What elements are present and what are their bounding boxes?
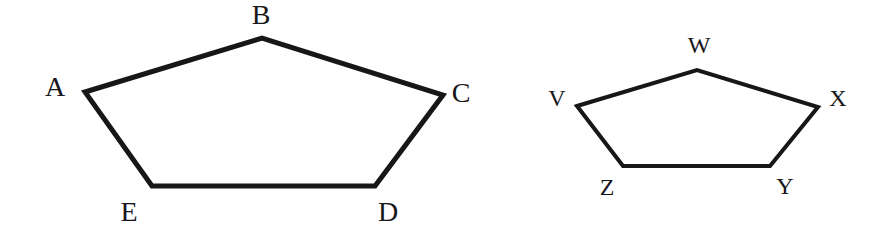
vertex-label-a: A: [45, 73, 65, 101]
small-pentagon-shape: [577, 70, 818, 166]
vertex-label-d: D: [378, 198, 398, 226]
vertex-label-x: X: [829, 86, 846, 110]
vertex-label-w: W: [688, 33, 711, 57]
large-pentagon-shape: [85, 38, 443, 186]
vertex-label-c: C: [452, 79, 471, 107]
vertex-label-y: Y: [776, 174, 793, 198]
vertex-label-e: E: [120, 198, 137, 226]
figure-canvas: ABCDE VWXYZ: [0, 0, 896, 232]
vertex-label-z: Z: [600, 175, 615, 199]
vertex-label-v: V: [548, 86, 565, 110]
vertex-label-b: B: [252, 1, 271, 29]
